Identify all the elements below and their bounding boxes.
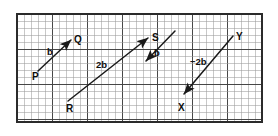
point-label-P: P (32, 72, 39, 82)
vector-diagram: PQRSXYb2bb−2b (0, 0, 278, 136)
vector-label-YX: −2b (190, 57, 207, 67)
point-label-R: R (66, 104, 73, 114)
grid-border (17, 14, 262, 122)
vector-label-PQ: b (47, 47, 53, 57)
vector-label-RS: 2b (96, 60, 107, 70)
diagram-canvas (0, 0, 278, 136)
vector-label-b-down: b (154, 48, 160, 58)
point-label-X: X (178, 103, 185, 113)
graph-paper-grid (17, 14, 262, 122)
point-label-Q: Q (74, 35, 82, 45)
point-label-Y: Y (236, 32, 243, 42)
point-label-S: S (152, 33, 159, 43)
vector-arrow-b-down (146, 31, 175, 61)
